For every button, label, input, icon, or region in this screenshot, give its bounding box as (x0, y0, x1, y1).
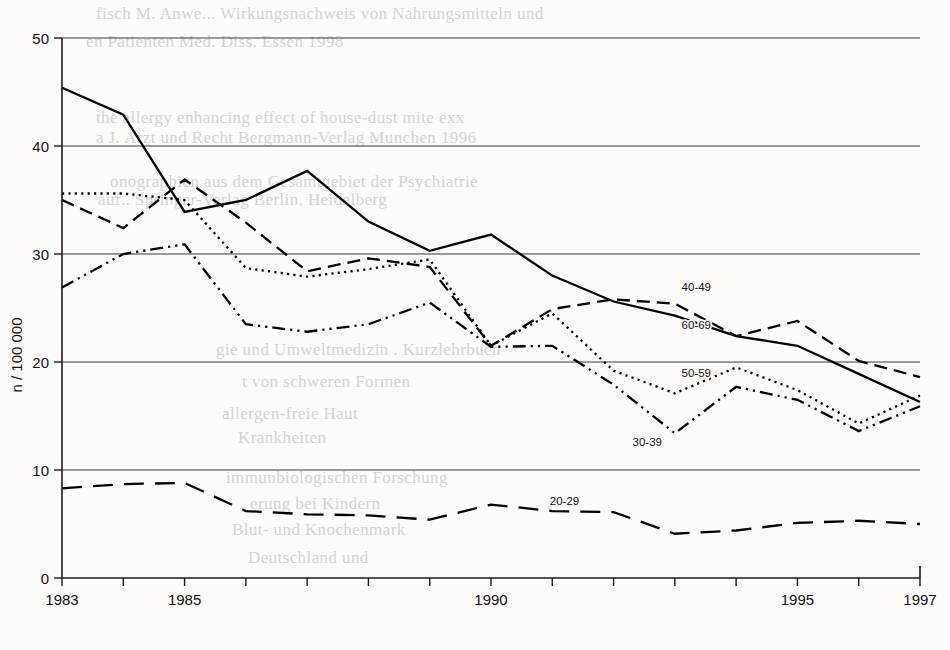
y-tick-label-10: 10 (32, 462, 49, 479)
series-inline-labels: 40-4940-4960-6960-6950-5950-5930-3930-39… (550, 281, 711, 507)
chart-figure: fisch M. Anwe... Wirkungsnachweis von Na… (0, 0, 950, 650)
series-label-40-49: 40-49 (682, 281, 711, 293)
series-line-30-39 (62, 244, 920, 433)
series-line-40-49 (62, 88, 920, 402)
series-label-50-59: 50-59 (682, 367, 711, 379)
x-tick-label-1990: 1990 (474, 591, 507, 608)
series-line-50-59 (62, 194, 920, 424)
x-tick-label-1997: 1997 (903, 591, 936, 608)
x-tick-label-1995: 1995 (781, 591, 814, 608)
x-tick-label-1985: 1985 (168, 591, 201, 608)
y-tick-label-30: 30 (32, 246, 49, 263)
y-axis-title: n / 100 000 (8, 317, 25, 392)
y-tick-label-40: 40 (32, 138, 49, 155)
y-axis-ticks (54, 38, 62, 578)
y-axis-tick-labels: 01020304050 (32, 30, 49, 587)
series-label-60-69: 60-69 (682, 319, 711, 331)
data-series-lines (62, 88, 920, 534)
gridlines (62, 146, 920, 470)
axes (62, 38, 920, 578)
y-axis-label: n / 100 000 (8, 317, 25, 392)
x-axis-ticks (62, 578, 920, 586)
line-chart-plot: 01020304050 19831985199019951997 n / 100… (0, 0, 950, 650)
y-tick-label-0: 0 (41, 570, 49, 587)
series-label-20-29: 20-29 (550, 495, 579, 507)
x-tick-label-1983: 1983 (45, 591, 78, 608)
series-line-20-29 (62, 483, 920, 534)
series-label-30-39: 30-39 (633, 436, 662, 448)
x-axis-tick-labels: 19831985199019951997 (45, 591, 936, 608)
y-tick-label-20: 20 (32, 354, 49, 371)
y-tick-label-50: 50 (32, 30, 49, 47)
